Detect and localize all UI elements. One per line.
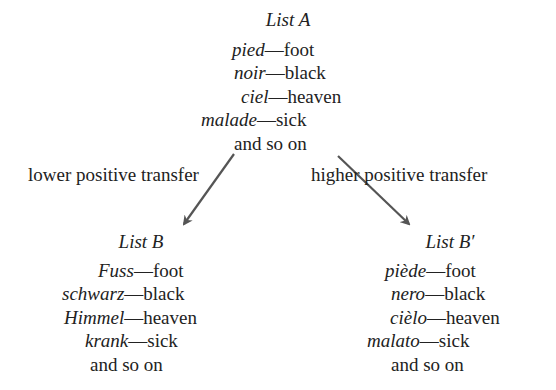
list-b: List B Fuss—foot schwarz—black Himmel—he… [60, 230, 250, 376]
list-item: krank—sick [60, 329, 250, 353]
label-lower-positive-transfer: lower positive transfer [28, 164, 199, 186]
list-a: List A pied—foot noir—black ciel—heaven … [200, 8, 376, 155]
list-item: pied—foot [200, 38, 376, 62]
list-footer: and so on [60, 353, 250, 377]
list-b-prime-title: List B′ [366, 230, 556, 254]
list-item: cièlo—heaven [366, 306, 556, 330]
list-item: nero—black [366, 282, 556, 306]
list-item: malato—sick [366, 329, 556, 353]
list-item: noir—black [200, 61, 376, 85]
list-b-prime: List B′ piède—foot nero—black cièlo—heav… [366, 230, 556, 376]
list-footer: and so on [366, 353, 556, 377]
list-item: schwarz—black [60, 282, 250, 306]
list-footer: and so on [200, 132, 376, 156]
list-item: ciel—heaven [200, 85, 376, 109]
list-item: Himmel—heaven [60, 306, 250, 330]
list-a-title: List A [200, 8, 376, 32]
list-item: Fuss—foot [60, 259, 250, 283]
list-item: piède—foot [366, 259, 556, 283]
label-higher-positive-transfer: higher positive transfer [311, 164, 487, 186]
list-b-title: List B [60, 230, 250, 254]
list-item: malade—sick [200, 108, 376, 132]
